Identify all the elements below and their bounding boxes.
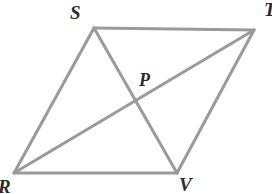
vertex-label-t: T <box>264 0 272 19</box>
segment-diagonal-rt <box>14 30 254 173</box>
segment-side-st <box>94 28 254 30</box>
geometry-figure: S T R V P <box>0 0 272 194</box>
segments-group <box>14 28 254 173</box>
vertex-label-v: V <box>179 175 192 194</box>
vertex-label-s: S <box>70 3 81 22</box>
segment-diagonal-sv <box>94 28 177 173</box>
vertex-label-r: R <box>0 177 11 194</box>
point-label-p: P <box>139 71 150 90</box>
parallelogram-diagram <box>0 0 272 194</box>
segment-side-sr <box>14 28 94 173</box>
